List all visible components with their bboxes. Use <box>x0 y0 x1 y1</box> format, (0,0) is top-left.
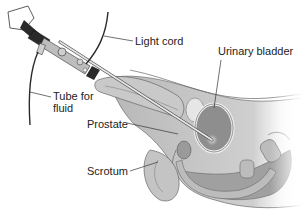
label-light-cord: Light cord <box>135 35 183 47</box>
label-tube-for-fluid-2: fluid <box>53 102 73 114</box>
label-scrotum: Scrotum <box>87 165 128 177</box>
cystoscopy-diagram: Light cord Urinary bladder Tube for flui… <box>0 0 302 220</box>
fluid-tube <box>29 52 38 125</box>
label-urinary-bladder: Urinary bladder <box>218 45 293 57</box>
label-prostate: Prostate <box>87 118 128 130</box>
light-cord <box>86 12 108 64</box>
label-tube-for-fluid-1: Tube for <box>53 90 94 102</box>
anatomy-illustration <box>0 0 302 220</box>
urinary-bladder <box>195 104 233 152</box>
